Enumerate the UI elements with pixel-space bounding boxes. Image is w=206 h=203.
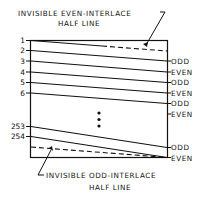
field-label: EVEN xyxy=(171,68,193,77)
even-interlace-half-line xyxy=(102,46,167,51)
line-number-label: 6 xyxy=(20,89,25,98)
right-field-labels: ODD EVEN ODD EVEN ODD EVEN ODD EVEN xyxy=(171,57,193,163)
bottom-annotation-line2: HALF LINE xyxy=(89,183,131,192)
field-label: EVEN xyxy=(171,110,193,119)
scan-line-6 xyxy=(31,93,167,104)
field-label: ODD xyxy=(171,143,190,152)
field-label: EVEN xyxy=(171,89,193,98)
field-label: ODD xyxy=(171,78,190,87)
field-label: ODD xyxy=(171,57,190,66)
line-number-label: 2 xyxy=(20,46,25,55)
scan-line-1 xyxy=(31,41,102,47)
top-arrowhead-icon xyxy=(143,42,148,47)
scan-lines xyxy=(31,41,167,158)
scan-line-5 xyxy=(31,83,167,94)
line-number-label: 1 xyxy=(20,36,25,45)
line-number-label: 253 xyxy=(11,122,25,131)
line-number-label: 254 xyxy=(11,132,25,141)
left-line-numbers: 1 2 3 4 5 6 253 254 xyxy=(11,36,25,141)
top-annotation-line2: HALF LINE xyxy=(58,19,100,28)
line-number-label: 5 xyxy=(20,78,25,87)
top-annotation-line1: INVISIBLE EVEN-INTERLACE xyxy=(18,9,131,18)
line-number-label: 4 xyxy=(20,68,25,77)
field-label: EVEN xyxy=(171,154,193,163)
scan-line-4 xyxy=(31,72,167,83)
bottom-annotation-line1: INVISIBLE ODD-INTERLACE xyxy=(46,171,156,180)
scan-line-253 xyxy=(31,127,167,148)
scan-line-2 xyxy=(31,51,167,62)
field-label: ODD xyxy=(171,99,190,108)
line-number-label: 3 xyxy=(20,57,25,66)
ellipsis-dots xyxy=(97,111,100,127)
interlace-diagram: INVISIBLE EVEN-INTERLACE HALF LINE xyxy=(0,0,206,203)
scan-line-3 xyxy=(31,61,167,72)
